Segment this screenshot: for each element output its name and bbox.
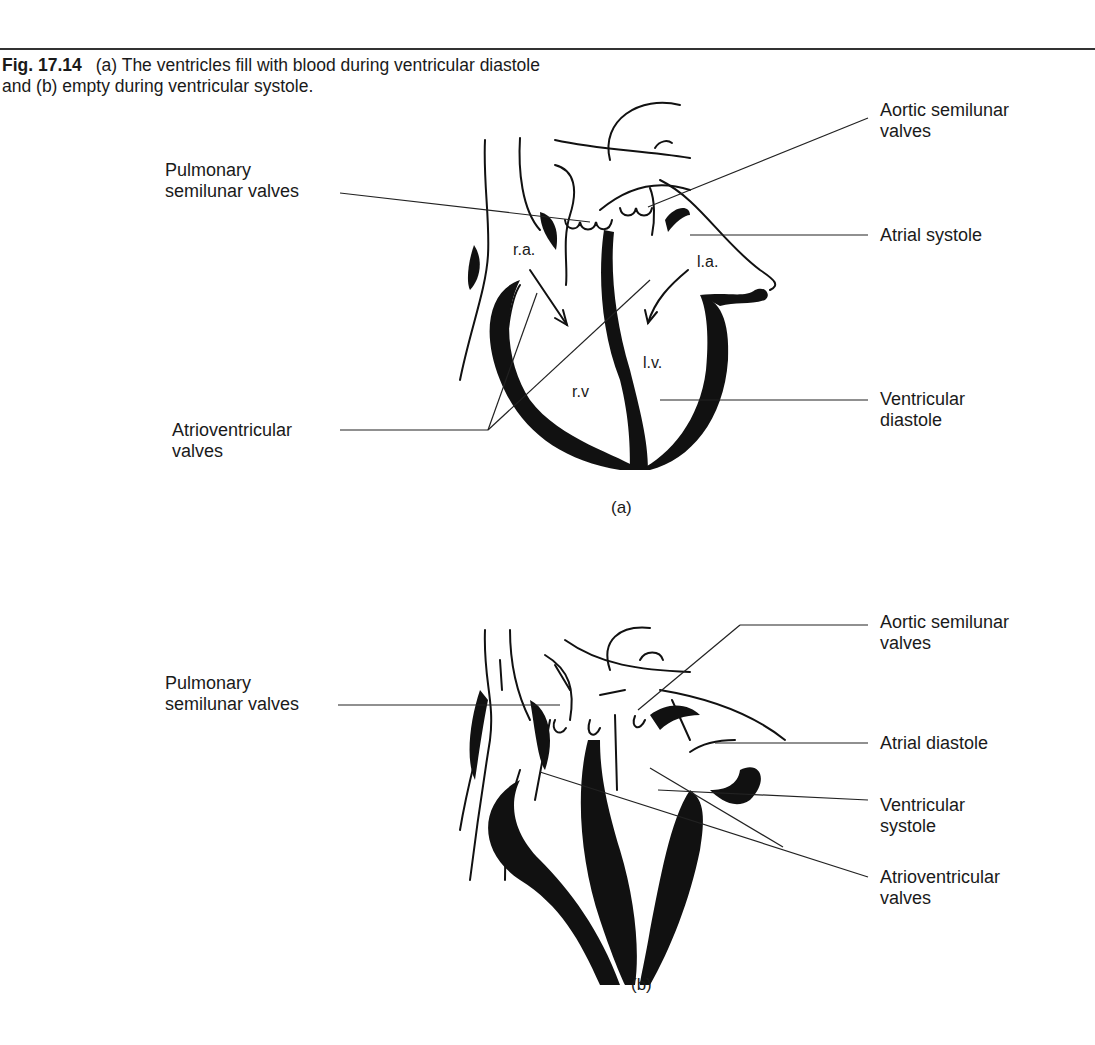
label-atrial-diastole: Atrial diastole [880, 733, 988, 754]
label-pulmonary-valves-b: Pulmonary semilunar valves [165, 673, 299, 715]
sublabel-b: (b) [631, 975, 652, 995]
label-av-valves-b: Atrioventricular valves [880, 867, 1000, 909]
label-ventricular-systole: Ventricular systole [880, 795, 965, 837]
label-aortic-valves-b: Aortic semilunar valves [880, 612, 1009, 654]
